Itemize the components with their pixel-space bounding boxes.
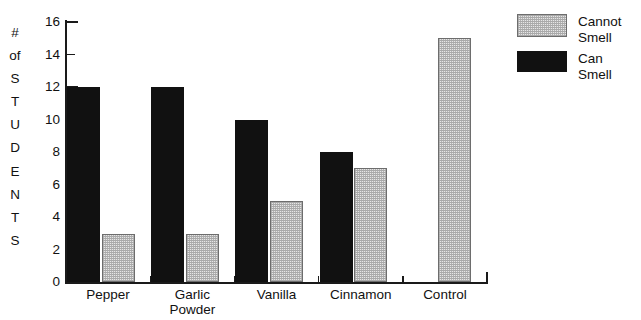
bar-garlic-powder-cannot-smell: [186, 234, 219, 283]
legend-label-cannot-smell: Cannot Smell: [578, 14, 622, 45]
x-category-label-garlic-powder: GarlicPowder: [150, 288, 234, 317]
plot-area: [0, 0, 641, 320]
bar-cinnamon-can-smell: [320, 152, 353, 282]
bar-control-cannot-smell: [438, 38, 471, 282]
legend-item-can-smell: Can Smell: [517, 51, 637, 82]
legend-item-cannot-smell: Cannot Smell: [517, 14, 622, 45]
legend-label-can-smell: Can Smell: [578, 51, 637, 82]
x-category-label-control: Control: [403, 288, 487, 303]
can-smell-swatch: [517, 51, 567, 72]
bar-garlic-powder-can-smell: [151, 87, 184, 282]
bar-chart: #ofSTUDENTS 0246810121416 PepperGarlicPo…: [0, 0, 641, 320]
bar-pepper-cannot-smell: [102, 234, 135, 283]
x-category-label-vanilla: Vanilla: [234, 288, 318, 303]
cannot-smell-swatch: [517, 14, 567, 37]
bar-vanilla-can-smell: [235, 120, 268, 283]
x-category-label-pepper: Pepper: [66, 288, 150, 303]
bar-vanilla-cannot-smell: [270, 201, 303, 282]
bar-pepper-can-smell: [67, 87, 100, 282]
x-category-label-cinnamon: Cinnamon: [319, 288, 403, 303]
bar-cinnamon-cannot-smell: [354, 168, 387, 282]
